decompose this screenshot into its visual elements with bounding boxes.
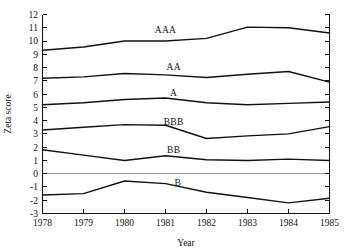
y-tick-label: 3 (33, 129, 38, 139)
y-axis-title: Zeta score (3, 94, 13, 133)
x-tick-label: 1980 (115, 218, 134, 228)
y-tick-label: 4 (33, 116, 38, 126)
x-tick-label: 1983 (238, 218, 257, 228)
y-tick-label: 2 (33, 143, 38, 153)
series-line-aa (43, 72, 330, 83)
y-tick-label: 10 (29, 36, 39, 46)
x-tick-label: 1985 (320, 218, 339, 228)
x-tick-label: 1984 (279, 218, 298, 228)
series-label-aaa: AAA (155, 25, 176, 35)
x-axis-title: Year (177, 238, 195, 248)
series-line-a (43, 98, 330, 105)
y-tick-label: 8 (33, 63, 38, 73)
y-tick-label: 6 (33, 90, 38, 100)
x-tick-label: 1981 (156, 218, 175, 228)
series-label-bbb: BBB (164, 117, 184, 127)
y-tick-label: 11 (29, 23, 38, 33)
y-tick-label: 12 (29, 10, 39, 20)
y-tick-label: -1 (30, 182, 38, 192)
series-label-b: B (174, 178, 181, 188)
series-label-bb: BB (167, 145, 180, 155)
series-line-bb (43, 150, 330, 161)
y-tick-label: 1 (33, 156, 38, 166)
series-label-a: A (170, 88, 177, 98)
y-tick-label: -2 (30, 196, 38, 206)
x-tick-label: 1979 (74, 218, 93, 228)
series-line-b (43, 181, 330, 203)
y-tick-label: 5 (33, 103, 38, 113)
x-tick-label: 1978 (33, 218, 52, 228)
series-line-aaa (43, 27, 330, 50)
series-line-bbb (43, 125, 330, 139)
y-tick-label: 0 (33, 169, 38, 179)
chart-canvas: -3-2-10123456789101112197819791980198119… (0, 0, 345, 250)
series-label-aa: AA (167, 62, 181, 72)
x-tick-label: 1982 (197, 218, 216, 228)
y-tick-label: 9 (33, 50, 38, 60)
y-tick-label: 7 (33, 76, 38, 86)
zeta-score-line-chart: -3-2-10123456789101112197819791980198119… (0, 0, 345, 250)
